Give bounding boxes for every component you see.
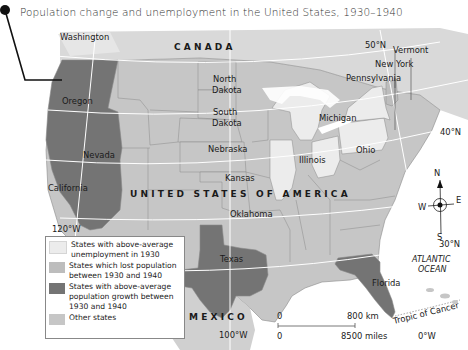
compass-e: E bbox=[456, 195, 461, 205]
label-south-dakota-1: South bbox=[213, 107, 237, 117]
legend-label: States with above-average unemployment i… bbox=[71, 240, 181, 260]
label-mexico: MEXICO bbox=[189, 312, 248, 322]
pointer-line bbox=[5, 10, 62, 80]
label-nebraska: Nebraska bbox=[208, 144, 248, 154]
legend-item-lost-population: States which lost population between 193… bbox=[49, 261, 181, 281]
label-ohio: Ohio bbox=[356, 145, 375, 155]
label-florida: Florida bbox=[372, 278, 401, 288]
label-lon-100: 100°W bbox=[219, 330, 247, 340]
label-north-dakota-2: Dakota bbox=[212, 85, 242, 95]
legend-swatch bbox=[49, 283, 65, 294]
legend-swatch bbox=[49, 314, 65, 325]
compass-s: S bbox=[437, 232, 442, 242]
label-north-dakota-1: North bbox=[213, 74, 236, 84]
label-south-dakota-2: Dakota bbox=[212, 118, 242, 128]
compass-w: W bbox=[418, 202, 426, 212]
legend-item-other: Other states bbox=[49, 313, 181, 325]
label-washington: Washington bbox=[60, 32, 109, 42]
label-canada: CANADA bbox=[174, 42, 236, 52]
scale-bar: 0 800 km 0 8500 miles bbox=[277, 311, 387, 341]
label-texas: Texas bbox=[219, 254, 243, 264]
scale-zero-bottom: 0 bbox=[277, 331, 282, 341]
legend-label: Other states bbox=[69, 313, 116, 323]
label-nevada: Nevada bbox=[83, 150, 115, 160]
label-pennsylvania: Pennsylvania bbox=[346, 73, 401, 83]
label-tropic: Tropic of Cancer bbox=[391, 300, 460, 326]
compass-icon: N S E W bbox=[418, 168, 461, 242]
scale-km: 800 km bbox=[347, 311, 379, 321]
legend-item-unemployment: States with above-average unemployment i… bbox=[49, 240, 181, 260]
label-lat-40: 40°N bbox=[440, 127, 461, 137]
label-vermont: Vermont bbox=[393, 45, 429, 55]
scale-miles: 8500 miles bbox=[341, 331, 387, 341]
label-ocean-2: OCEAN bbox=[418, 265, 446, 274]
legend-label: States which lost population between 193… bbox=[69, 261, 181, 281]
legend: States with above-average unemployment i… bbox=[45, 236, 185, 339]
legend-swatch bbox=[49, 262, 65, 273]
label-usa: UNITED STATES OF AMERICA bbox=[130, 189, 351, 199]
label-kansas: Kansas bbox=[225, 173, 255, 183]
label-ocean-1: ATLANTIC bbox=[411, 255, 451, 264]
legend-item-growth: States with above-average population gro… bbox=[49, 282, 181, 312]
label-oregon: Oregon bbox=[62, 96, 93, 106]
legend-label: States with above-average population gro… bbox=[69, 282, 181, 312]
label-california: California bbox=[48, 183, 88, 193]
label-oklahoma: Oklahoma bbox=[230, 209, 273, 219]
scale-zero-top: 0 bbox=[277, 311, 282, 321]
label-lon-120: 120°W bbox=[52, 224, 80, 234]
label-michigan: Michigan bbox=[319, 113, 357, 123]
label-lat-50: 50°N bbox=[365, 40, 386, 50]
compass-n: N bbox=[434, 168, 440, 178]
label-illinois: Illinois bbox=[299, 155, 326, 165]
label-lon-0: 0°W bbox=[418, 331, 436, 341]
legend-swatch bbox=[49, 241, 67, 254]
label-new-york: New York bbox=[375, 59, 413, 69]
